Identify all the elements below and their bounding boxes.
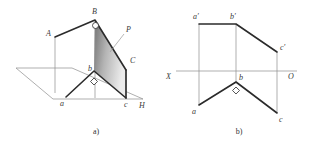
label-A: A — [45, 29, 51, 38]
leader-line-p — [110, 34, 124, 52]
label-B: B — [92, 7, 97, 16]
figure-a: A B P C a b c H a) — [16, 7, 146, 136]
label-a2: a — [192, 107, 196, 116]
label-H: H — [138, 101, 146, 110]
label-a-prime: a′ — [193, 12, 199, 21]
label-P: P — [125, 25, 131, 34]
figure-root: A B P C a b c H a) a′ b′ — [0, 0, 310, 146]
label-X: X — [165, 72, 172, 81]
polyline-abc-plan — [199, 82, 277, 113]
right-angle-marker-b2 — [233, 87, 240, 94]
caption-a: a) — [93, 127, 100, 136]
polyline-abc-prime — [199, 24, 277, 52]
plane-p-shaded — [94, 20, 126, 98]
technical-drawing-svg: A B P C a b c H a) a′ b′ — [0, 0, 310, 146]
caption-b: b) — [236, 127, 243, 136]
label-a: a — [60, 99, 64, 108]
label-c2: c — [279, 115, 283, 124]
label-c-prime: c′ — [280, 43, 286, 52]
figure-b: a′ b′ c′ X O b a c b) — [165, 12, 297, 136]
label-b2: b — [239, 73, 243, 82]
label-b-prime: b′ — [230, 12, 236, 21]
right-angle-marker-B — [93, 23, 99, 29]
label-O: O — [288, 72, 294, 81]
label-C: C — [130, 56, 136, 65]
label-b: b — [88, 64, 92, 73]
label-c: c — [124, 100, 128, 109]
